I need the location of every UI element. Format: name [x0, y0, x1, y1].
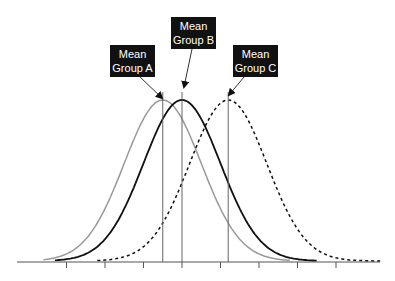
label-a-line2: Group A [110, 61, 155, 75]
x-axis-ticks [67, 262, 337, 268]
label-mean-group-a: Mean Group A [110, 45, 155, 77]
label-mean-group-c: Mean Group C [233, 45, 278, 77]
arrow-group-a [140, 77, 162, 98]
label-a-line1: Mean [110, 47, 155, 61]
arrow-group-b [184, 49, 192, 87]
label-c-line2: Group C [233, 61, 278, 75]
curve-group-a [43, 100, 289, 260]
label-mean-group-b: Mean Group B [171, 17, 216, 49]
label-b-line2: Group B [171, 33, 216, 47]
curve-group-b [55, 100, 317, 261]
label-b-line1: Mean [171, 19, 216, 33]
label-c-line1: Mean [233, 47, 278, 61]
arrow-group-c [229, 77, 244, 95]
